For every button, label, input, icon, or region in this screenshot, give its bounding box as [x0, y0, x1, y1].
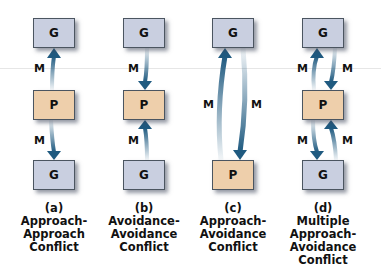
person-box-c: P: [212, 160, 254, 190]
arrow-b-up: [138, 120, 152, 160]
goal-box-a-top: G: [33, 18, 75, 48]
arrow-d-bottom-avoid: [324, 120, 338, 160]
motive-label-a-1: M: [34, 62, 45, 75]
motive-label-b-2: M: [128, 134, 139, 147]
goal-box-b-bottom: G: [123, 160, 165, 190]
arrow-a-up: [47, 48, 61, 90]
goal-box-a-bottom: G: [33, 160, 75, 190]
goal-box-c: G: [212, 18, 254, 48]
goal-box-d-top: G: [302, 18, 344, 48]
caption-c-line-3: Conflict: [188, 241, 278, 254]
motive-label-d-3: M: [297, 134, 308, 147]
arrow-b-down: [138, 48, 152, 90]
arrow-c-approach: [218, 48, 232, 160]
arrow-c-avoid: [233, 48, 247, 160]
caption-a-line-3: Conflict: [9, 241, 99, 254]
person-box-a: P: [33, 90, 75, 120]
motive-label-d-2: M: [342, 62, 353, 75]
goal-box-d-bottom: G: [302, 160, 344, 190]
caption-a: (a) Approach- Approach Conflict: [9, 202, 99, 254]
motive-label-c-2: M: [251, 98, 262, 111]
motive-label-d-4: M: [342, 134, 353, 147]
caption-b: (b) Avoidance- Avoidance Conflict: [99, 202, 189, 254]
motive-label-a-2: M: [34, 134, 45, 147]
motive-label-c-1: M: [203, 98, 214, 111]
arrow-a-down: [47, 120, 61, 160]
arrow-d-top-avoid: [324, 48, 338, 90]
motive-label-d-1: M: [297, 62, 308, 75]
goal-box-b-top: G: [123, 18, 165, 48]
person-box-b: P: [123, 90, 165, 120]
caption-c: (c) Approach- Avoidance Conflict: [188, 202, 278, 254]
caption-d-line-4: Conflict: [278, 254, 368, 267]
caption-b-line-3: Conflict: [99, 241, 189, 254]
person-box-d: P: [302, 90, 344, 120]
arrow-d-top-approach: [310, 48, 324, 90]
motive-label-b-1: M: [128, 62, 139, 75]
arrow-d-bottom-approach: [310, 120, 324, 160]
caption-d: (d) Multiple Approach- Avoidance Conflic…: [278, 202, 368, 267]
